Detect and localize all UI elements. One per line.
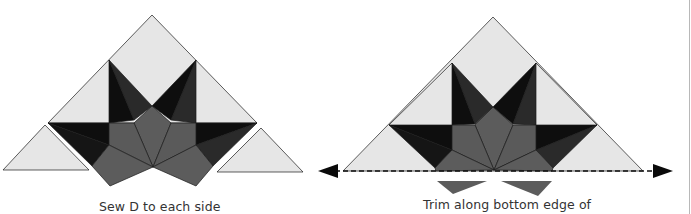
caption-sew-d: Sew D to each side [99, 201, 220, 214]
caption-trim: Trim along bottom edge of [423, 199, 591, 212]
left-star-unit [3, 15, 303, 186]
trimmed-piece-right [501, 181, 552, 196]
arrow-right-icon [653, 164, 673, 178]
right-star-unit [343, 17, 643, 196]
trimmed-piece-left [437, 181, 487, 194]
quilt-diagram [0, 0, 691, 214]
arrow-left-icon [318, 164, 338, 178]
page-edge-line [689, 0, 690, 214]
